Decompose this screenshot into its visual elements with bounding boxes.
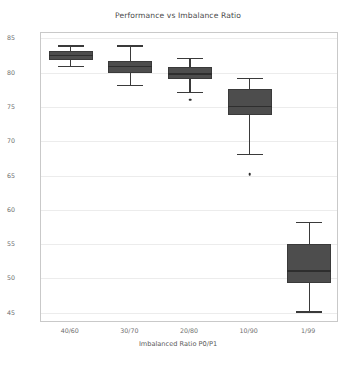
x-tick-label: 10/90 (240, 327, 258, 334)
median-line (287, 270, 331, 271)
chart-title: Performance vs Imbalance Ratio (0, 11, 356, 20)
y-tick-label: 65 (0, 171, 15, 178)
y-tick-label: 60 (0, 205, 15, 212)
figure-canvas: Performance vs Imbalance Ratio 455055606… (0, 0, 356, 365)
plot-area (40, 32, 338, 322)
y-tick-label: 55 (0, 240, 15, 247)
cap-lower (296, 311, 322, 312)
cap-upper (296, 222, 322, 223)
boxplot-box (41, 33, 337, 321)
y-tick-label: 75 (0, 103, 15, 110)
y-tick-label: 85 (0, 34, 15, 41)
y-tick-label: 45 (0, 308, 15, 315)
box-rect (287, 244, 331, 282)
x-tick-label: 40/60 (61, 327, 79, 334)
x-tick-label: 1/99 (301, 327, 315, 334)
whisker-upper (309, 222, 310, 244)
y-tick-label: 50 (0, 274, 15, 281)
x-tick-label: 30/70 (120, 327, 138, 334)
x-axis-label: Imbalanced Ratio P0/P1 (0, 340, 356, 348)
y-tick-label: 80 (0, 68, 15, 75)
x-tick-label: 20/80 (180, 327, 198, 334)
whisker-lower (309, 283, 310, 312)
y-tick-label: 70 (0, 137, 15, 144)
